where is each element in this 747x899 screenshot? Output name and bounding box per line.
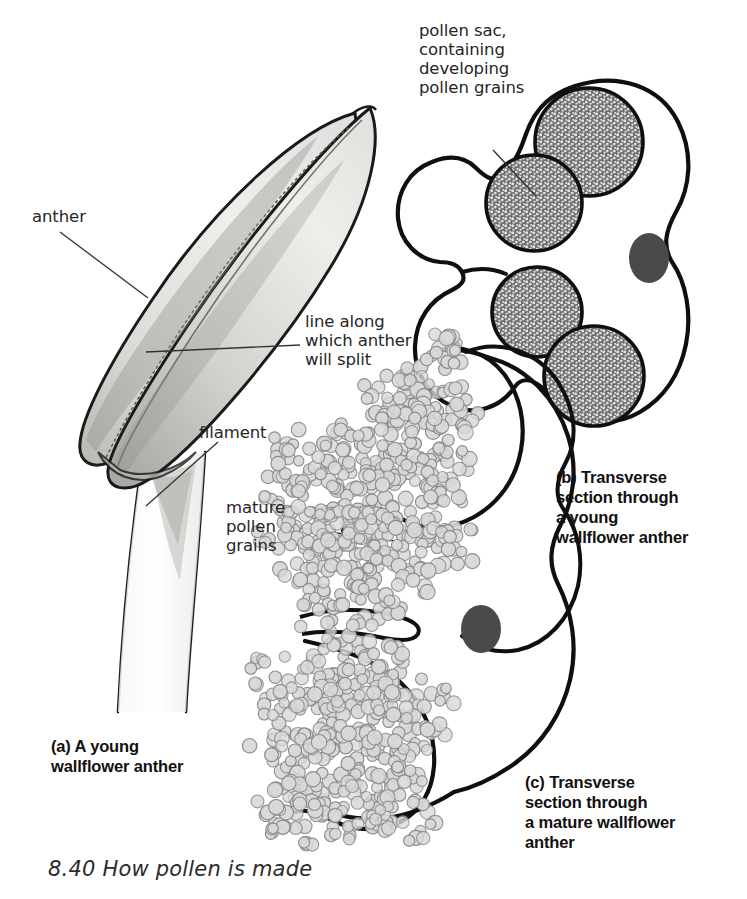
anther-wall-outline-b: [398, 81, 689, 422]
pollen-sac-2: [486, 155, 582, 251]
panel-a-young-anther: [80, 107, 376, 712]
caption-panel-a: (a) A young wallflower anther: [51, 736, 183, 776]
panel-c-ts-mature-anther: [296, 347, 580, 830]
figure-caption: 8.40 How pollen is made: [48, 857, 312, 881]
label-split-line: line along which anther will split: [305, 312, 412, 369]
vascular-bundle-b: [629, 233, 669, 283]
anther-split-opening-c: [300, 610, 419, 640]
caption-panel-b: (b) Transverse section through a young w…: [556, 467, 688, 547]
anther-wall-upper-lobe-c: [343, 349, 523, 531]
leader-lines-panel-a: [60, 232, 300, 506]
vascular-bundle-c: [461, 605, 501, 653]
filament-shape: [118, 452, 205, 712]
pollen-sac-4: [544, 326, 644, 426]
label-pollen-sac: pollen sac, containing developing pollen…: [419, 21, 524, 97]
panel-b-ts-young-anther: [398, 81, 689, 426]
label-anther: anther: [32, 207, 86, 226]
pollen-sac-1: [535, 88, 643, 196]
figure-pollen-formation: anther line along which anther will spli…: [0, 0, 747, 899]
label-filament: filament: [199, 423, 266, 442]
anther-split-line: [104, 128, 348, 462]
anther-outer-wall-c: [454, 359, 574, 792]
label-mature-pollen-grains: mature pollen grains: [226, 498, 285, 555]
anther-wall-lower-lobe-c: [296, 641, 434, 829]
pollen-sac-3: [492, 267, 582, 357]
caption-panel-c: (c) Transverse section through a mature …: [525, 772, 675, 852]
